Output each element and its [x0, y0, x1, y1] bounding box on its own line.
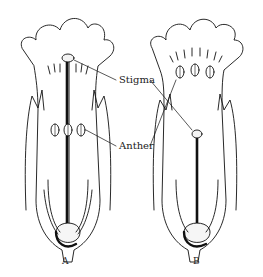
anther-label: Anther — [119, 140, 154, 151]
caption-b: B — [193, 256, 200, 266]
flower-b — [151, 19, 243, 262]
leader-lines — [74, 60, 192, 146]
flower-a — [21, 18, 114, 262]
caption-a: A — [62, 256, 69, 266]
flower-diagram — [0, 0, 263, 277]
stigma-label: Stigma — [119, 74, 155, 85]
